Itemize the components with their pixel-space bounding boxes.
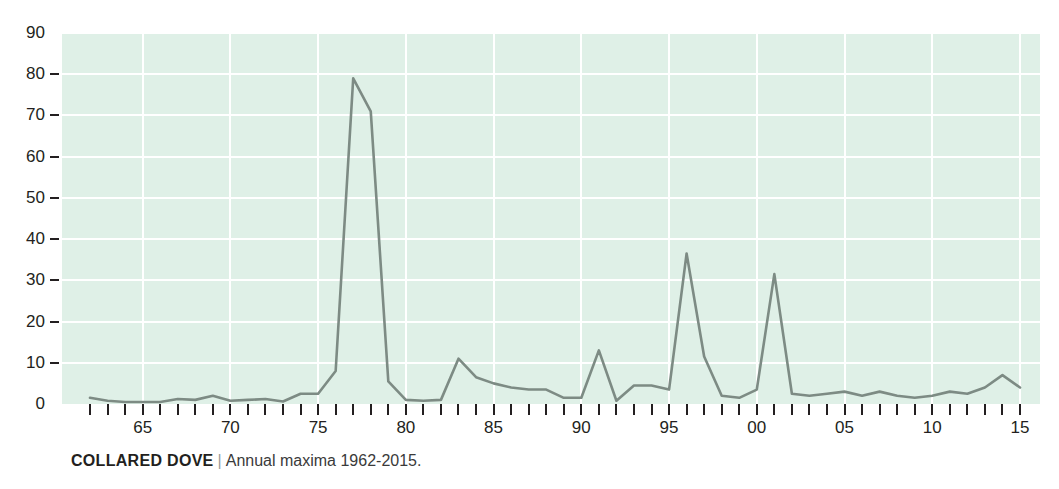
x-axis-tick-mark — [107, 404, 109, 415]
y-axis-tick-mark — [50, 73, 59, 75]
y-axis-tick-label: 30 — [26, 272, 45, 288]
x-axis-tick-mark — [861, 404, 863, 415]
y-axis-tick-mark — [50, 238, 59, 240]
x-axis-tick-mark — [335, 404, 337, 415]
x-axis-tick-mark — [247, 404, 249, 415]
x-axis-tick-mark — [177, 404, 179, 415]
y-axis-tick-mark — [50, 32, 59, 34]
x-axis-tick-label: 00 — [747, 418, 766, 438]
x-axis-tick-mark — [668, 404, 670, 415]
y-axis-tick: 0 — [36, 396, 62, 412]
caption-separator: | — [214, 452, 226, 469]
x-axis-tick-mark — [966, 404, 968, 415]
y-axis-tick: 90 — [26, 25, 62, 41]
x-axis-tick-mark — [457, 404, 459, 415]
x-axis-tick-mark — [686, 404, 688, 415]
y-axis-tick-label: 50 — [26, 190, 45, 206]
x-axis-tick-mark — [510, 404, 512, 415]
x-axis-tick-mark — [387, 404, 389, 415]
x-axis-tick-mark — [317, 404, 319, 415]
x-axis-tick-mark — [300, 404, 302, 415]
y-axis: 0102030405060708090 — [0, 0, 62, 489]
chart-caption: COLLARED DOVE|Annual maxima 1962-2015. — [71, 452, 421, 470]
y-axis-tick: 20 — [26, 314, 62, 330]
x-axis-tick-mark — [159, 404, 161, 415]
caption-title: COLLARED DOVE — [71, 452, 214, 469]
y-axis-tick-mark — [50, 362, 59, 364]
x-axis: 6570758085909500051015 — [62, 404, 1040, 449]
x-axis-tick-mark — [352, 404, 354, 415]
x-axis-tick-mark — [370, 404, 372, 415]
x-axis-tick-mark — [773, 404, 775, 415]
y-axis-tick: 70 — [26, 107, 62, 123]
x-axis-tick-mark — [721, 404, 723, 415]
y-axis-tick: 60 — [26, 149, 62, 165]
x-axis-tick-mark — [949, 404, 951, 415]
x-axis-tick-mark — [791, 404, 793, 415]
y-axis-tick: 40 — [26, 231, 62, 247]
x-axis-tick-mark — [598, 404, 600, 415]
x-axis-tick-mark — [229, 404, 231, 415]
x-axis-tick-mark — [124, 404, 126, 415]
x-axis-tick-mark — [422, 404, 424, 415]
x-axis-tick-mark — [633, 404, 635, 415]
x-axis-tick-label: 10 — [923, 418, 942, 438]
x-axis-tick-mark — [756, 404, 758, 415]
x-axis-tick-mark — [931, 404, 933, 415]
x-axis-tick-mark — [580, 404, 582, 415]
series-line-chart — [62, 33, 1040, 404]
x-axis-tick-mark — [703, 404, 705, 415]
x-axis-tick-mark — [896, 404, 898, 415]
x-axis-tick-label: 05 — [835, 418, 854, 438]
chart-figure: 0102030405060708090 65707580859095000510… — [0, 0, 1059, 489]
y-axis-tick-mark — [50, 321, 59, 323]
y-axis-tick-mark — [50, 114, 59, 116]
x-axis-tick-mark — [808, 404, 810, 415]
y-axis-tick-label: 40 — [26, 231, 45, 247]
plot-area — [62, 33, 1040, 404]
x-axis-tick-label: 15 — [1011, 418, 1030, 438]
x-axis-tick-mark — [615, 404, 617, 415]
y-axis-tick: 10 — [26, 355, 62, 371]
x-axis-tick-mark — [1001, 404, 1003, 415]
x-axis-tick-label: 80 — [396, 418, 415, 438]
x-axis-tick-mark — [282, 404, 284, 415]
x-axis-tick-label: 70 — [221, 418, 240, 438]
y-axis-tick: 50 — [26, 190, 62, 206]
x-axis-tick-label: 65 — [133, 418, 152, 438]
x-axis-tick-mark — [826, 404, 828, 415]
x-axis-tick-mark — [738, 404, 740, 415]
x-axis-tick-mark — [844, 404, 846, 415]
x-axis-tick-mark — [563, 404, 565, 415]
x-axis-tick-mark — [475, 404, 477, 415]
x-axis-tick-mark — [528, 404, 530, 415]
y-axis-tick-label: 0 — [36, 396, 45, 412]
x-axis-tick-mark — [405, 404, 407, 415]
series-polyline — [90, 78, 1020, 402]
y-axis-tick-mark — [50, 156, 59, 158]
x-axis-tick-mark — [142, 404, 144, 415]
x-axis-tick-mark — [1019, 404, 1021, 415]
y-axis-tick-label: 20 — [26, 314, 45, 330]
y-axis-tick-mark — [50, 197, 59, 199]
x-axis-tick-label: 75 — [309, 418, 328, 438]
y-axis-tick-label: 70 — [26, 107, 45, 123]
x-axis-tick-mark — [264, 404, 266, 415]
y-axis-tick-mark — [50, 403, 59, 405]
x-axis-tick-label: 85 — [484, 418, 503, 438]
caption-subtitle: Annual maxima 1962-2015. — [226, 452, 422, 469]
x-axis-tick-mark — [440, 404, 442, 415]
x-axis-tick-mark — [89, 404, 91, 415]
y-axis-tick: 80 — [26, 66, 62, 82]
x-axis-tick-mark — [651, 404, 653, 415]
y-axis-tick: 30 — [26, 272, 62, 288]
x-axis-tick-mark — [545, 404, 547, 415]
x-axis-tick-mark — [879, 404, 881, 415]
x-axis-tick-label: 95 — [660, 418, 679, 438]
y-axis-tick-label: 90 — [26, 25, 45, 41]
x-axis-tick-mark — [914, 404, 916, 415]
y-axis-tick-label: 80 — [26, 66, 45, 82]
y-axis-tick-mark — [50, 279, 59, 281]
x-axis-tick-mark — [212, 404, 214, 415]
x-axis-tick-mark — [194, 404, 196, 415]
